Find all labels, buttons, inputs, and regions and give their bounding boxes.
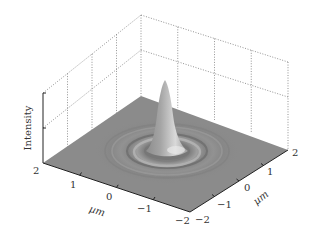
x-tick-1: 1: [70, 180, 76, 190]
x-tick-minus1: −1: [137, 204, 152, 214]
z-axis-label: Intensity: [22, 105, 33, 150]
y-tick-2: 2: [292, 148, 298, 158]
x-tick-minus2: −2: [175, 216, 190, 226]
x-tick-2: 2: [33, 166, 39, 176]
y-tick-minus1: −1: [217, 200, 232, 210]
y-tick-1: 1: [267, 167, 273, 177]
y-tick-0: 0: [244, 183, 250, 193]
x-tick-0: 0: [106, 192, 112, 202]
y-tick-minus2: −2: [195, 215, 210, 225]
